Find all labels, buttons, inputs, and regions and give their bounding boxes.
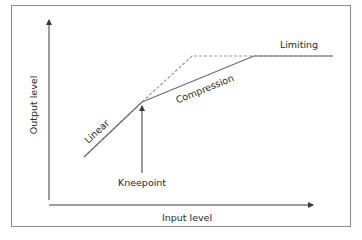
limiting-label: Limiting — [280, 39, 318, 50]
compressor-transfer-diagram: Output level Input level Linear Compress… — [0, 0, 362, 240]
y-axis-label: Output level — [28, 76, 39, 135]
compression-label: Compression — [174, 72, 235, 105]
kneepoint-label: Kneepoint — [118, 177, 166, 188]
linear-label: Linear — [82, 117, 111, 145]
dashed-reference-line — [84, 56, 333, 157]
x-axis-label: Input level — [162, 212, 212, 223]
